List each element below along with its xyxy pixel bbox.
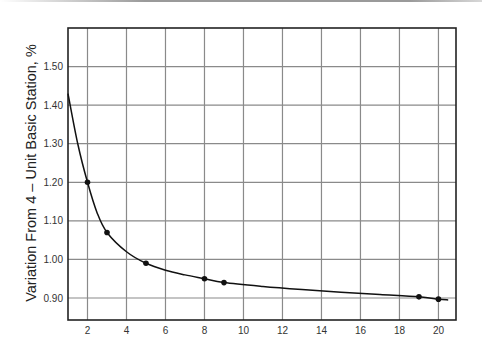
x-tick-label: 12 <box>277 325 289 336</box>
x-tick-label: 20 <box>433 325 445 336</box>
y-tick-label: 1.30 <box>44 138 64 149</box>
data-point-marker <box>221 280 227 286</box>
grid-lines <box>68 28 456 320</box>
x-tick-label: 16 <box>355 325 367 336</box>
x-tick-label: 18 <box>394 325 406 336</box>
y-tick-label: 1.10 <box>44 215 64 226</box>
data-point-marker <box>143 260 149 266</box>
data-point-marker <box>85 179 91 185</box>
line-chart: 2468101214161820 0.901.001.101.201.301.4… <box>0 0 482 356</box>
y-tick-label: 1.00 <box>44 254 64 265</box>
y-axis-ticks: 0.901.001.101.201.301.401.50 <box>44 61 64 303</box>
y-tick-label: 0.90 <box>44 293 64 304</box>
data-point-marker <box>104 230 110 236</box>
data-point-marker <box>416 294 422 300</box>
data-curve <box>68 94 448 300</box>
y-tick-label: 1.50 <box>44 61 64 72</box>
x-tick-label: 8 <box>202 325 208 336</box>
y-tick-label: 1.40 <box>44 100 64 111</box>
x-tick-label: 4 <box>124 325 130 336</box>
data-markers <box>85 179 442 301</box>
x-tick-label: 2 <box>85 325 91 336</box>
x-axis-ticks: 2468101214161820 <box>85 325 445 336</box>
y-axis-label: Variation From 4 – Unit Basic Station, % <box>23 44 39 302</box>
data-point-marker <box>202 276 208 282</box>
x-tick-label: 10 <box>238 325 250 336</box>
y-tick-label: 1.20 <box>44 177 64 188</box>
data-point-marker <box>436 296 442 302</box>
x-tick-label: 6 <box>163 325 169 336</box>
x-tick-label: 14 <box>316 325 328 336</box>
